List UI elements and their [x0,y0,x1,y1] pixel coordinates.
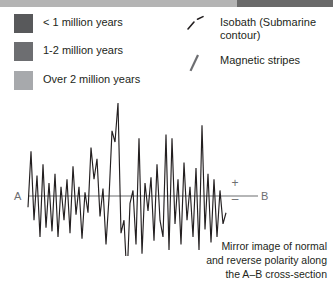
legend: < 1 million years 1-2 million years Over… [0,10,333,90]
chart-svg [0,86,333,256]
legend-label-age-0: < 1 million years [43,14,123,29]
magnetic-anomaly-chart [0,86,333,256]
legend-label-symbol-1: Magnetic stripes [220,52,300,67]
dashed-line-icon [186,14,210,34]
caption-line-2: and reverse polarity along [175,253,327,267]
axis-label-a: A [14,190,21,202]
age-swatch-icon [14,42,33,61]
polarity-negative-symbol: – [227,194,243,205]
legend-symbol-column: Isobath (Submarine contour) Magnetic str… [186,14,320,80]
top-strip-light-segment [0,0,237,7]
legend-label-symbol-0: Isobath (Submarine contour) [220,14,320,42]
polarity-positive-symbol: + [227,178,243,189]
top-banner-strip [0,0,333,7]
caption-line-3: the A–B cross-section [175,267,327,281]
legend-item-symbol-0: Isobath (Submarine contour) [186,14,320,42]
anomaly-polyline [28,103,226,256]
axis-label-b: B [261,190,268,202]
polarity-indicator: + – [227,178,243,205]
legend-label-age-1: 1-2 million years [43,42,123,57]
legend-item-symbol-1: Magnetic stripes [186,52,320,72]
legend-item-age-1: 1-2 million years [14,42,140,62]
stripe-icon [186,52,210,72]
caption-line-1: Mirror image of normal [175,239,327,253]
age-swatch-icon [14,14,33,33]
figure-root: < 1 million years 1-2 million years Over… [0,0,333,297]
chart-caption: Mirror image of normal and reverse polar… [175,239,327,281]
legend-label-age-2: Over 2 million years [43,71,140,86]
top-strip-dark-segment [237,0,333,7]
legend-item-age-0: < 1 million years [14,14,140,34]
